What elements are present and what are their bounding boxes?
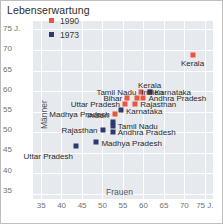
x-axis-tick: 35 <box>37 201 46 210</box>
legend-swatch-icon <box>49 32 54 37</box>
legend-label: 1973 <box>60 30 79 40</box>
data-point-label: Rajasthan <box>62 126 98 135</box>
y-axis-tick: 70 <box>3 44 33 53</box>
data-point-label: Kerala <box>181 59 204 68</box>
x-axis-tick-labels: 354045505560657075 J. <box>33 201 223 217</box>
data-point-label: Madhya Pradesh <box>101 139 161 148</box>
plot-area: KeralaKarnatakaTamil NaduAndhra PradeshI… <box>33 21 213 199</box>
y-axis-tick: 55 <box>3 105 33 114</box>
x-axis-tick: 55 <box>119 201 128 210</box>
chart-figure: Lebenserwartung KeralaKarnatakaTamil Nad… <box>0 0 223 224</box>
x-axis-tick: 45 <box>78 201 87 210</box>
x-axis-title: Frauen <box>106 187 133 197</box>
x-axis-tick: 40 <box>57 201 66 210</box>
x-axis-tick: 70 <box>180 201 189 210</box>
data-point[interactable] <box>73 144 78 149</box>
legend-item-1990[interactable]: 1990 <box>49 11 79 25</box>
y-axis-tick: 60 <box>3 85 33 94</box>
x-axis-tick: 60 <box>139 201 148 210</box>
data-point[interactable] <box>112 112 117 117</box>
y-axis-tick: 45 <box>3 145 33 154</box>
data-point[interactable] <box>94 140 99 145</box>
gridline-horizontal <box>33 71 213 72</box>
data-point[interactable] <box>110 120 115 125</box>
y-axis-tick: 75 J. <box>3 24 33 33</box>
y-axis-tick-labels: 75 J.7065605550454035 <box>1 21 32 199</box>
x-axis-tick: 50 <box>98 201 107 210</box>
gridline-horizontal <box>33 173 213 174</box>
legend-item-1973[interactable]: 1973 <box>49 25 79 39</box>
data-point-label: Indien <box>87 111 109 120</box>
data-point-label: Kerala <box>138 80 161 89</box>
x-axis-tick: 75 J. <box>196 201 213 210</box>
data-point[interactable] <box>190 53 195 58</box>
y-axis-tick: 35 <box>3 186 33 195</box>
chart-legend: 19901973 <box>49 11 79 39</box>
data-point[interactable] <box>110 130 115 135</box>
y-axis-tick: 50 <box>3 125 33 134</box>
data-point[interactable] <box>100 128 105 133</box>
gridline-horizontal <box>33 50 213 51</box>
y-axis-tick: 65 <box>3 65 33 74</box>
y-axis-tick: 40 <box>3 166 33 175</box>
data-point-label: Uttar Pradesh <box>71 99 120 108</box>
y-axis-title: Männer <box>39 100 49 129</box>
data-point-label: Andhra Pradesh <box>118 128 176 137</box>
legend-swatch-icon <box>49 18 54 23</box>
x-axis-tick: 65 <box>159 201 168 210</box>
data-point-label: Karnataka <box>126 107 162 116</box>
